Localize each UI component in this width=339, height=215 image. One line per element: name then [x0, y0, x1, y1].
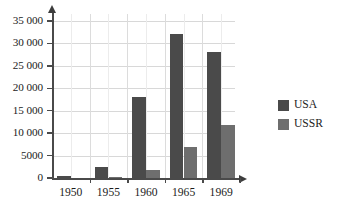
legend-swatch-icon: [278, 119, 289, 130]
x-tick-mark: [127, 178, 128, 183]
x-tick-mark: [165, 178, 166, 183]
y-tick-label: 25 000: [13, 60, 43, 71]
bar-ussr-1955: [109, 177, 123, 178]
legend-item-ussr: USSR: [278, 116, 338, 132]
bar-usa-1969: [207, 52, 221, 178]
bar-usa-1965: [170, 34, 184, 178]
bar-usa-1960: [132, 97, 146, 178]
caption-text: [6, 206, 256, 214]
x-tick-mark: [90, 178, 91, 183]
legend-item-usa: USA: [278, 97, 338, 113]
x-tick-label: 1965: [164, 187, 204, 199]
y-tick-label: 30 000: [13, 37, 43, 48]
legend-label: USSR: [294, 118, 323, 130]
chart-legend: USAUSSR: [278, 97, 338, 135]
y-tick-label: 15 000: [13, 105, 43, 116]
bar-usa-1950: [57, 176, 71, 178]
y-tick-label: 20 000: [13, 82, 43, 93]
y-tick-label: 0: [38, 172, 44, 183]
bar-chart-figure: 0500010 00015 00020 00025 00030 00035 00…: [0, 0, 339, 215]
x-tick-mark: [202, 178, 203, 183]
x-tick-label: 1955: [88, 187, 128, 199]
x-axis-line: [52, 178, 240, 180]
y-tick-label: 5000: [21, 150, 43, 161]
x-tick-label: 1969: [201, 187, 241, 199]
y-tick-label: 35 000: [13, 15, 43, 26]
x-tick-mark: [240, 178, 241, 183]
bar-ussr-1960: [146, 170, 160, 178]
y-tick-label: 10 000: [13, 127, 43, 138]
bars-layer: [52, 12, 240, 178]
x-tick-label: 1960: [126, 187, 166, 199]
bar-ussr-1969: [221, 125, 235, 178]
bar-usa-1955: [95, 167, 109, 178]
legend-label: USA: [294, 99, 317, 111]
legend-swatch-icon: [278, 100, 289, 111]
x-tick-label: 1950: [51, 187, 91, 199]
bar-ussr-1965: [184, 147, 198, 178]
